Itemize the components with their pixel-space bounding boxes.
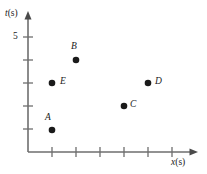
y-tick-label-5: 5 xyxy=(13,31,18,41)
data-point-label-C: C xyxy=(130,99,136,109)
plot-canvas xyxy=(0,0,207,174)
y-axis-arrowhead xyxy=(25,11,32,20)
data-point-B xyxy=(73,57,80,64)
y-axis-label-unit: (s) xyxy=(8,8,18,18)
data-point-D xyxy=(145,80,152,87)
data-point-label-D: D xyxy=(155,76,162,86)
scatter-plot-figure: t(s) x(s) 5 A B C D E xyxy=(0,0,207,174)
x-axis-label-unit: (s) xyxy=(175,157,185,167)
y-axis-label: t(s) xyxy=(5,8,18,18)
data-point-label-B: B xyxy=(71,41,77,51)
data-point-label-A: A xyxy=(45,112,51,122)
data-point-E xyxy=(49,80,56,87)
x-axis-arrowhead xyxy=(190,149,199,156)
data-point-label-E: E xyxy=(60,76,66,86)
data-point-C xyxy=(121,103,128,110)
data-point-A xyxy=(49,127,56,134)
x-axis-label: x(s) xyxy=(171,157,185,167)
